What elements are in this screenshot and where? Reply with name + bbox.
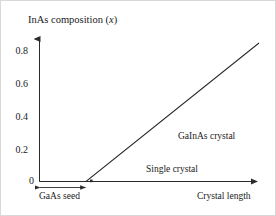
y-axis-title-suffix: ) xyxy=(114,14,118,25)
annotation-single-crystal: Single crystal xyxy=(146,165,198,175)
chart-plot-area xyxy=(1,1,276,216)
y-tick-label-0-4: 0.4 xyxy=(4,112,28,122)
y-axis-title: InAs composition (x) xyxy=(28,15,117,26)
x-axis-title: Crystal length xyxy=(197,192,251,202)
y-tick-label-0-2: 0.2 xyxy=(4,145,28,155)
composition-profile-line xyxy=(40,43,260,182)
annotation-gaas-seed: GaAs seed xyxy=(39,192,80,202)
y-tick-label-0-6: 0.6 xyxy=(4,79,28,89)
y-tick-label-0: 0 xyxy=(10,176,34,186)
y-tick-label-0-8: 0.8 xyxy=(4,46,28,56)
axis-tick-marker xyxy=(90,180,93,183)
annotation-gainas-crystal: GaInAs crystal xyxy=(178,132,235,142)
chart-figure: InAs composition (x) 0 0.2 0.4 0.6 0.8 G… xyxy=(0,0,276,216)
y-axis-title-prefix: InAs composition ( xyxy=(28,14,109,25)
